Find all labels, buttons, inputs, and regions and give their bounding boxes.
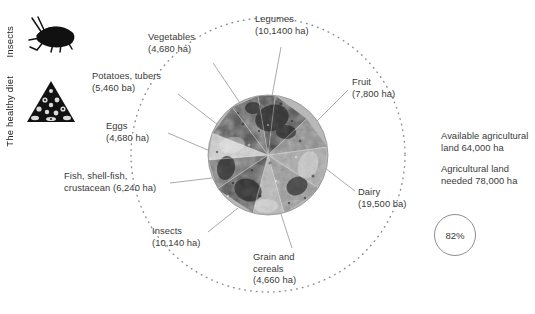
leader-grain	[281, 214, 292, 248]
cricket-icon	[20, 14, 80, 58]
leader-dairy	[325, 168, 355, 191]
callout-legumes: Legumes (10,1400 ha)	[255, 13, 309, 36]
callout-eggs: Eggs (4,680 ha)	[106, 120, 149, 143]
food-pyramid-icon	[22, 78, 80, 126]
leader-vegetables	[213, 63, 240, 103]
percent-badge: 82%	[434, 214, 476, 256]
callout-insects: Insects (10,140 ha)	[152, 225, 201, 248]
leader-fish	[170, 178, 212, 183]
infographic-canvas: Insects The healthy diet	[0, 0, 535, 314]
needed-land-text: Agricultural land needed 78,000 ha	[441, 163, 533, 187]
leader-insects	[208, 208, 238, 232]
leader-potatoes	[178, 94, 218, 125]
rail-label-insects: Insects	[4, 26, 15, 58]
leader-legumes	[272, 47, 281, 96]
callout-vegetables: Vegetables (4,680 ha)	[148, 31, 195, 54]
callout-fruit: Fruit (7,800 ha)	[352, 76, 395, 99]
callout-dairy: Dairy (19,500 ba)	[358, 186, 407, 209]
callout-grain: Grain and cereals (4,660 ha)	[253, 251, 296, 286]
callout-fish: Fish, shell-fish, crustacean (6,240 ha)	[64, 170, 156, 193]
leader-fruit	[317, 90, 348, 121]
callout-potatoes: Potatoes, tubers (5,460 ba)	[92, 70, 161, 93]
available-land-text: Available agricultural land 64,000 ha	[441, 130, 533, 154]
rail-label-healthy-diet: The healthy diet	[4, 76, 15, 147]
globe-pie-chart	[208, 95, 328, 215]
leader-eggs	[168, 133, 210, 151]
